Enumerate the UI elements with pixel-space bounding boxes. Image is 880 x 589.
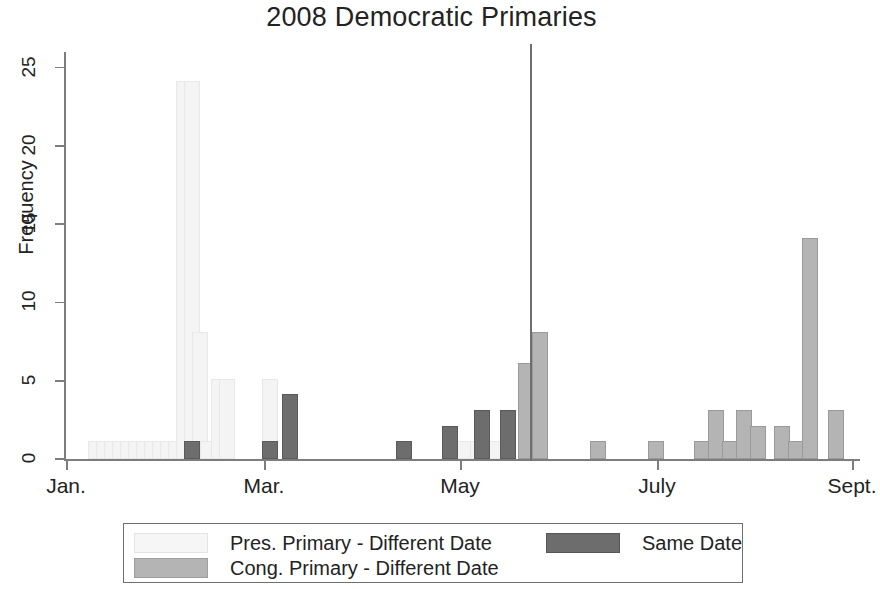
x-axis-line (64, 459, 860, 461)
y-tick (55, 67, 65, 69)
bar (532, 332, 548, 459)
bar (219, 379, 235, 459)
bar (282, 394, 298, 459)
y-tick (55, 458, 65, 460)
x-tick (460, 459, 462, 470)
x-tick (852, 459, 854, 470)
bar (474, 410, 490, 459)
bar (500, 410, 516, 459)
x-tick (66, 459, 68, 470)
bar (802, 238, 818, 459)
bar (262, 441, 278, 459)
bar (396, 441, 412, 459)
bar (828, 410, 844, 459)
bar (184, 441, 200, 459)
bar (442, 426, 458, 459)
bar (192, 332, 208, 459)
x-tick (264, 459, 266, 470)
y-tick-label: 10 (18, 278, 40, 324)
legend-label-same-date: Same Date (642, 532, 742, 555)
bar (590, 441, 606, 459)
x-tick-label: May (415, 474, 505, 498)
y-tick (55, 223, 65, 225)
legend-entry-pres: Pres. Primary - Different Date (134, 530, 492, 556)
y-tick-label: 25 (18, 44, 40, 90)
legend-label-cong-primary-different-date: Cong. Primary - Different Date (230, 557, 499, 580)
x-tick-label: Sept. (807, 474, 880, 498)
y-tick (55, 145, 65, 147)
page-title: 2008 Democratic Primaries (0, 2, 863, 33)
bar (648, 441, 664, 459)
y-tick (55, 380, 65, 382)
y-tick-label: 15 (18, 200, 40, 246)
legend-swatch-cong-primary-different-date (134, 558, 208, 578)
bar-layer (66, 52, 860, 459)
y-tick (55, 302, 65, 304)
legend: Pres. Primary - Different Date Cong. Pri… (123, 523, 743, 583)
x-tick (657, 459, 659, 470)
legend-label-pres-primary-different-date: Pres. Primary - Different Date (230, 532, 492, 555)
vertical-reference-line (530, 44, 532, 461)
y-tick-label: 20 (18, 122, 40, 168)
legend-swatch-same-date (546, 533, 620, 553)
y-tick-label: 5 (18, 357, 40, 403)
bar (750, 426, 766, 459)
x-tick-label: Mar. (219, 474, 309, 498)
legend-swatch-pres-primary-different-date (134, 533, 208, 553)
legend-entry-same: Same Date (546, 530, 742, 556)
x-tick-label: July (612, 474, 702, 498)
x-tick-label: Jan. (21, 474, 111, 498)
legend-entry-cong: Cong. Primary - Different Date (134, 555, 499, 581)
